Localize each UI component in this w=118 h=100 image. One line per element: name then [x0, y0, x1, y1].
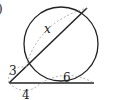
label-6: 6 [63, 71, 71, 85]
label-3: 3 [9, 64, 17, 78]
secant-line-1 [9, 8, 87, 83]
label-4: 4 [22, 88, 30, 100]
circle [24, 7, 98, 81]
problem-number: ) [0, 2, 3, 16]
label-x: x [44, 22, 51, 36]
secant-diagram: ) x 3 4 6 [0, 0, 118, 100]
